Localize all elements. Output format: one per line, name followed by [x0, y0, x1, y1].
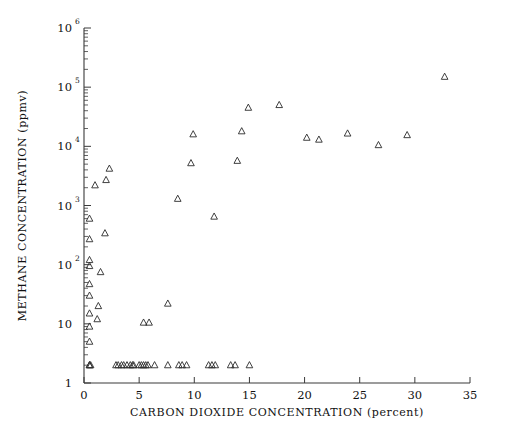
data-point-marker — [276, 101, 283, 107]
y-tick-exponent: 5 — [75, 76, 80, 85]
y-tick-label: 103 — [57, 195, 80, 213]
data-point-marker — [106, 165, 113, 171]
data-point-marker — [86, 292, 93, 298]
data-point-marker — [86, 280, 93, 286]
data-point-marker — [246, 362, 253, 368]
y-tick-mantissa: 10 — [57, 21, 72, 35]
x-tick-label: 20 — [297, 388, 312, 402]
scatter-plot-figure: 05101520253035110102103104105106CARBON D… — [0, 0, 505, 433]
data-point-marker — [165, 362, 172, 368]
data-point-group — [86, 73, 448, 368]
data-point-marker — [151, 362, 158, 368]
y-tick-exponent: 2 — [75, 254, 80, 263]
data-point-marker — [174, 195, 181, 201]
data-point-marker — [404, 131, 411, 137]
x-tick-label: 35 — [463, 388, 478, 402]
data-point-marker — [165, 300, 172, 306]
y-tick-label: 106 — [57, 17, 80, 35]
data-point-marker — [344, 130, 351, 136]
x-tick-label: 5 — [135, 388, 142, 402]
data-point-marker — [86, 215, 93, 221]
y-tick-exponent: 6 — [75, 17, 80, 26]
data-point-marker — [234, 157, 241, 163]
data-point-marker — [238, 128, 245, 134]
y-axis-title: METHANE CONCENTRATION (ppmv) — [16, 90, 29, 321]
data-point-marker — [190, 131, 197, 137]
data-point-marker — [86, 338, 93, 344]
y-tick-exponent: 3 — [75, 195, 80, 204]
data-point-marker — [97, 268, 104, 274]
x-tick-label: 25 — [352, 388, 367, 402]
y-tick-label: 1 — [65, 376, 72, 390]
y-tick-label: 104 — [57, 135, 80, 153]
y-tick-label: 105 — [57, 76, 80, 94]
data-point-marker — [103, 176, 110, 182]
y-tick-mantissa: 1 — [65, 376, 72, 390]
x-tick-label: 15 — [242, 388, 257, 402]
x-tick-label: 0 — [80, 388, 87, 402]
y-tick-mantissa: 10 — [57, 139, 72, 153]
data-point-marker — [94, 316, 101, 322]
data-point-marker — [316, 136, 323, 142]
data-point-marker — [86, 262, 93, 268]
data-point-marker — [146, 319, 153, 325]
data-point-marker — [86, 310, 93, 316]
data-point-marker — [303, 134, 310, 140]
x-tick-label: 30 — [408, 388, 423, 402]
data-point-marker — [92, 182, 99, 188]
y-tick-label: 102 — [57, 254, 80, 272]
y-tick-label: 10 — [57, 317, 72, 331]
plot-canvas: 05101520253035110102103104105106CARBON D… — [0, 0, 505, 433]
data-point-marker — [188, 160, 195, 166]
y-tick-mantissa: 10 — [57, 317, 72, 331]
y-tick-mantissa: 10 — [57, 199, 72, 213]
data-point-marker — [245, 104, 252, 110]
y-tick-mantissa: 10 — [57, 258, 72, 272]
data-point-marker — [441, 73, 448, 79]
x-axis-title: CARBON DIOXIDE CONCENTRATION (percent) — [130, 406, 424, 419]
data-point-marker — [95, 302, 102, 308]
y-tick-mantissa: 10 — [57, 80, 72, 94]
y-tick-exponent: 4 — [75, 135, 80, 144]
x-tick-label: 10 — [187, 388, 202, 402]
data-point-marker — [375, 141, 382, 147]
data-point-marker — [211, 213, 218, 219]
data-point-marker — [102, 230, 109, 236]
